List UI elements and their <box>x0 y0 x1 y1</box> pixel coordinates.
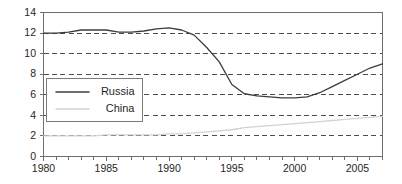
x-axis-label-2000: 2000 <box>283 162 307 174</box>
y-axis-label-10: 10 <box>24 47 36 59</box>
legend-label-russia: Russia <box>101 85 136 97</box>
x-axis-label-1985: 1985 <box>95 162 119 174</box>
x-axis-label-1980: 1980 <box>32 162 56 174</box>
x-axis-labels: 198019851990199520002005 <box>32 162 369 174</box>
y-axis-label-6: 6 <box>30 88 36 100</box>
y-axis-label-2: 2 <box>30 129 36 141</box>
line-chart: 02468101214 198019851990199520002005 Rus… <box>0 0 402 184</box>
y-axis-label-14: 14 <box>24 6 36 18</box>
y-axis-labels: 02468101214 <box>24 6 36 162</box>
x-axis-label-2005: 2005 <box>346 162 370 174</box>
y-axis-ticks <box>40 13 44 157</box>
y-axis-label-4: 4 <box>30 109 36 121</box>
x-axis-ticks <box>44 157 383 162</box>
chart-legend: RussiaChina <box>47 79 143 122</box>
y-axis-label-12: 12 <box>24 26 36 38</box>
y-axis-label-0: 0 <box>30 150 36 162</box>
chart-container: 02468101214 198019851990199520002005 Rus… <box>0 0 402 184</box>
legend-label-china: China <box>106 102 136 114</box>
x-axis-label-1990: 1990 <box>157 162 181 174</box>
x-axis-label-1995: 1995 <box>220 162 244 174</box>
y-axis-label-8: 8 <box>30 67 36 79</box>
